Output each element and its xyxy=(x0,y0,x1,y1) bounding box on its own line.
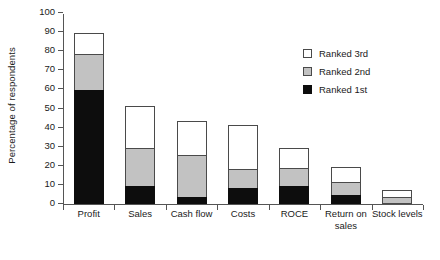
y-tick: 80 xyxy=(58,50,63,51)
y-axis-title: Percentage of respondents xyxy=(0,0,22,210)
y-tick-label: 90 xyxy=(44,25,55,36)
y-tick: 50 xyxy=(58,108,63,109)
x-axis-label: Costs xyxy=(217,208,268,220)
chart-legend: Ranked 3rdRanked 2ndRanked 1st xyxy=(303,46,370,100)
plot-area: 0102030405060708090100 xyxy=(63,14,423,205)
bar-stack xyxy=(228,126,258,204)
x-axis-label: Sales xyxy=(114,208,165,220)
y-tick: 10 xyxy=(58,184,63,185)
bar-segment-ranked-3rd xyxy=(331,167,361,183)
bar-segment-ranked-2nd xyxy=(125,148,155,187)
y-tick-label: 80 xyxy=(44,44,55,55)
bar-segment-ranked-1st xyxy=(125,186,155,204)
y-tick: 100 xyxy=(58,12,63,13)
bar-stack xyxy=(382,191,412,204)
y-tick: 90 xyxy=(58,31,63,32)
y-tick-label: 100 xyxy=(39,6,55,17)
bar-segment-ranked-3rd xyxy=(228,125,258,170)
legend-swatch-icon xyxy=(303,85,312,94)
bar-segment-ranked-2nd xyxy=(74,54,104,91)
y-tick: 0 xyxy=(58,203,63,204)
y-axis-title-text: Percentage of respondents xyxy=(6,47,17,164)
bar-segment-ranked-1st xyxy=(228,188,258,204)
y-tick: 30 xyxy=(58,146,63,147)
bar-segment-ranked-3rd xyxy=(279,148,309,169)
stacked-bar-chart: Percentage of respondents 01020304050607… xyxy=(0,0,440,260)
legend-label: Ranked 1st xyxy=(319,84,367,95)
bar-segment-ranked-3rd xyxy=(177,121,207,156)
y-tick: 70 xyxy=(58,69,63,70)
bar-stack xyxy=(279,149,309,204)
x-axis-line xyxy=(63,204,423,205)
y-tick: 20 xyxy=(58,165,63,166)
y-tick-label: 40 xyxy=(44,121,55,132)
bar-segment-ranked-2nd xyxy=(177,155,207,198)
y-tick: 40 xyxy=(58,127,63,128)
bar-segment-ranked-1st xyxy=(279,186,309,204)
bar-stack xyxy=(125,107,155,204)
legend-label: Ranked 3rd xyxy=(319,48,368,59)
y-tick: 60 xyxy=(58,88,63,89)
legend-item: Ranked 3rd xyxy=(303,46,370,61)
bar-segment-ranked-2nd xyxy=(331,182,361,196)
bar-segment-ranked-2nd xyxy=(382,197,412,204)
y-tick-label: 60 xyxy=(44,82,55,93)
y-tick-label: 20 xyxy=(44,159,55,170)
y-tick-label: 30 xyxy=(44,140,55,151)
y-axis-line xyxy=(63,14,64,205)
legend-swatch-icon xyxy=(303,67,312,76)
y-tick-label: 70 xyxy=(44,63,55,74)
legend-item: Ranked 1st xyxy=(303,82,370,97)
x-axis-label: Profit xyxy=(63,208,114,220)
bar-segment-ranked-1st xyxy=(177,197,207,204)
bar-segment-ranked-3rd xyxy=(125,106,155,149)
x-axis-label: Return on sales xyxy=(320,208,371,231)
y-tick-label: 0 xyxy=(50,197,55,208)
bar-segment-ranked-2nd xyxy=(228,169,258,189)
legend-item: Ranked 2nd xyxy=(303,64,370,79)
legend-label: Ranked 2nd xyxy=(319,66,370,77)
x-tick xyxy=(423,205,424,210)
x-axis-label: Cash flow xyxy=(166,208,217,220)
bar-segment-ranked-3rd xyxy=(74,33,104,55)
bar-stack xyxy=(331,168,361,204)
legend-swatch-icon xyxy=(303,49,312,58)
y-tick-label: 50 xyxy=(44,102,55,113)
bar-stack xyxy=(177,122,207,204)
x-axis-label: Stock levels xyxy=(372,208,423,220)
x-axis-label: ROCE xyxy=(269,208,320,220)
y-tick-label: 10 xyxy=(44,178,55,189)
bar-segment-ranked-2nd xyxy=(279,168,309,187)
bar-segment-ranked-1st xyxy=(74,90,104,204)
bar-segment-ranked-1st xyxy=(331,195,361,204)
bar-stack xyxy=(74,34,104,204)
